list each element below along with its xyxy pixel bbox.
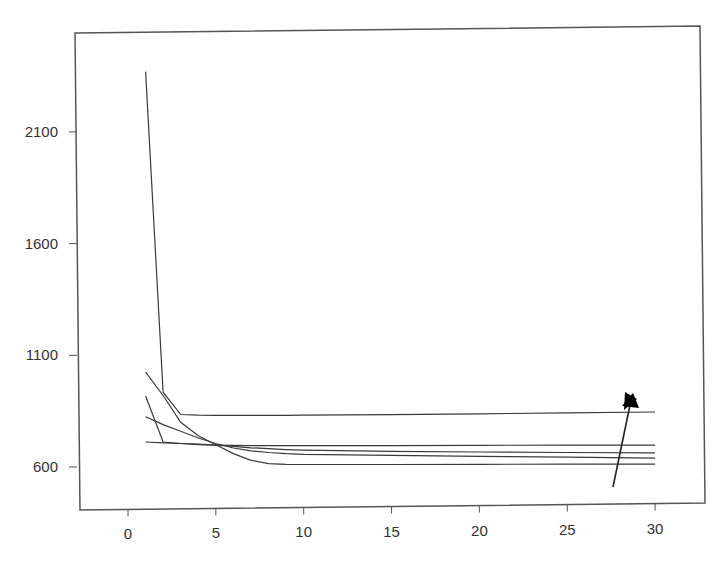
x-tick-label: 15: [383, 523, 400, 540]
x-tick-label: 0: [124, 525, 132, 542]
line-chart: 600110016002100 051015202530: [0, 0, 726, 570]
trend-arrow-icon: [613, 392, 639, 487]
x-tick-label: 20: [471, 522, 488, 539]
plot-frame: [75, 26, 705, 510]
y-tick-label: 2100: [25, 123, 58, 140]
x-tick-label: 10: [295, 523, 312, 540]
x-tick-label: 30: [647, 520, 664, 537]
series-lines: [146, 72, 655, 465]
y-tick-label: 600: [33, 458, 58, 475]
line-series-2: [146, 372, 655, 464]
line-series-3: [146, 396, 655, 446]
y-tick-label: 1100: [26, 346, 58, 363]
x-axis: 051015202530: [124, 504, 664, 543]
x-tick-label: 25: [559, 521, 576, 538]
y-axis: 600110016002100: [25, 123, 77, 475]
line-series-1: [146, 72, 655, 416]
y-tick-label: 1600: [25, 235, 58, 252]
x-tick-label: 5: [212, 524, 220, 541]
